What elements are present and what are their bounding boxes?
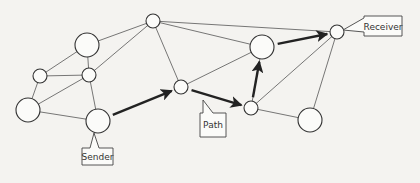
edge-G-H — [181, 47, 262, 87]
node-H — [250, 35, 274, 59]
node-G — [174, 80, 188, 94]
receiver-node — [330, 25, 344, 39]
node-E — [16, 98, 40, 122]
node-J — [244, 101, 258, 115]
node-K — [298, 108, 322, 132]
edge-A-G — [153, 21, 181, 87]
node-D — [82, 68, 96, 82]
node-A — [146, 14, 160, 28]
sender-node — [86, 109, 110, 133]
edge-K-I — [310, 32, 337, 120]
edges-layer — [28, 21, 337, 121]
path-callout-box — [200, 100, 226, 137]
network-graph: Sender Path Receiver — [0, 0, 420, 183]
path-label: Path — [203, 120, 223, 130]
path-callout: Path — [200, 100, 226, 137]
nodes-layer — [16, 14, 344, 133]
sender-callout: Sender — [82, 133, 114, 165]
edge-A-H — [153, 21, 262, 47]
receiver-callout: Receiver — [343, 16, 403, 36]
node-B — [75, 33, 99, 57]
edge-A-I — [153, 21, 337, 32]
path-arrow-J-H — [253, 62, 259, 97]
network-diagram: Sender Path Receiver — [0, 0, 420, 183]
receiver-label: Receiver — [364, 22, 403, 32]
path-arrow-H-I — [278, 34, 328, 44]
path-arrow-G-J — [192, 90, 242, 105]
path-arrow-F-G — [113, 91, 172, 115]
path-layer — [113, 34, 327, 115]
node-C — [33, 69, 47, 83]
sender-label: Sender — [82, 152, 114, 162]
